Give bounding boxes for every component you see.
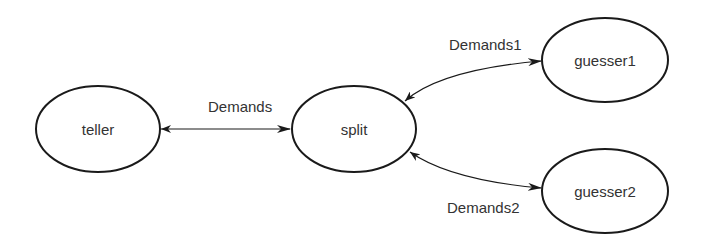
edge-split-guesser2: Demands2: [410, 152, 541, 216]
node-teller[interactable]: teller: [36, 86, 160, 172]
edge-split-guesser1: Demands1: [405, 36, 541, 101]
node-label-guesser1: guesser1: [574, 52, 636, 69]
diagram-canvas: Demands Demands1 Demands2 teller split g…: [0, 0, 702, 243]
edge-label-demands2: Demands2: [447, 199, 520, 216]
node-split[interactable]: split: [292, 86, 416, 172]
edge-label-demands: Demands: [208, 98, 272, 115]
edge-teller-split: Demands: [161, 98, 290, 129]
node-guesser1[interactable]: guesser1: [542, 18, 668, 102]
node-label-guesser2: guesser2: [574, 183, 636, 200]
node-label-teller: teller: [82, 121, 115, 138]
node-guesser2[interactable]: guesser2: [542, 149, 668, 233]
edge-label-demands1: Demands1: [449, 36, 522, 53]
node-label-split: split: [341, 121, 369, 138]
